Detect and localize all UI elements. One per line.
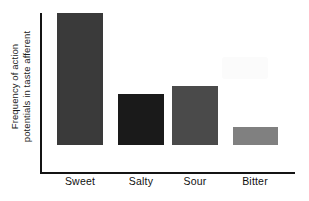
bar-sweet[interactable] [57,13,103,145]
bar-salty[interactable] [118,94,164,145]
bar-bitter[interactable] [233,127,278,145]
bar-sour[interactable] [172,86,218,145]
bar-chart-figure: Frequency of action potentials in taste … [0,0,309,201]
x-tick-label-bitter: Bitter [215,175,295,187]
plot-area [0,0,309,173]
x-axis-tick-labels: Sweet Salty Sour Bitter [0,175,309,201]
